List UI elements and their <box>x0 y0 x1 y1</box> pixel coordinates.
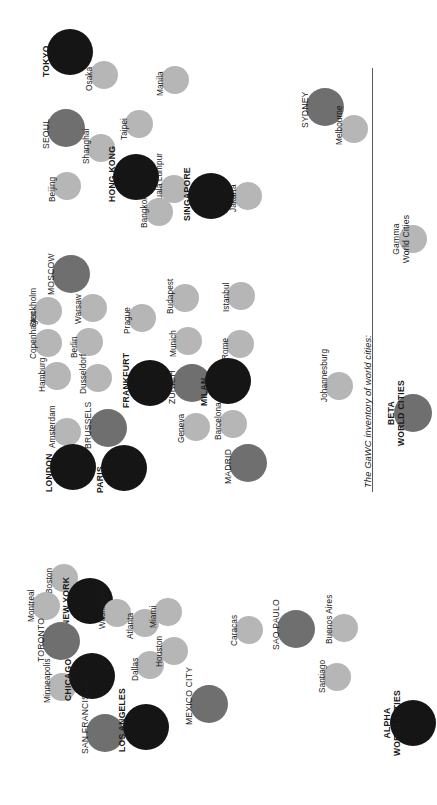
city-label: SEOUL <box>42 119 51 149</box>
city-label: TORONTO <box>37 618 46 662</box>
city-label: Bangkok <box>141 195 150 228</box>
city-label: Jakarta <box>230 184 239 212</box>
legend-label-gamma: GammaWorld Cities <box>391 193 412 285</box>
city-label: Atlanta <box>127 613 136 639</box>
city-label: Hamburg <box>39 358 48 392</box>
city-label: Shanghai <box>83 129 92 164</box>
city-label: Boston <box>46 568 55 594</box>
city-label: Miami <box>150 606 159 628</box>
city-node[interactable] <box>50 444 96 490</box>
city-label: BRUSSELS <box>84 402 93 449</box>
city-label: Geneva <box>178 414 187 443</box>
city-node[interactable] <box>188 173 234 219</box>
city-label: SINGAPORE <box>183 167 192 221</box>
city-label: Melbourne <box>336 105 345 145</box>
city-label: Minneapolis <box>44 658 53 703</box>
city-node[interactable] <box>89 409 127 447</box>
city-label: LONDON <box>45 453 54 492</box>
city-label: Caracas <box>231 615 240 646</box>
city-node[interactable] <box>101 445 147 491</box>
page-title: The GaWC inventory of world cities: <box>362 335 373 488</box>
legend-label-line1: BETA <box>386 367 396 459</box>
city-label: Taipei <box>121 118 130 140</box>
city-label: Budapest <box>167 279 176 314</box>
city-label: Johannesburg <box>321 349 330 402</box>
city-label: NEW YORK <box>62 577 71 626</box>
city-label: CHICAGO <box>64 659 73 701</box>
legend-label-line2: WORLD CITIES <box>392 677 402 769</box>
city-label: MILAN <box>200 378 209 406</box>
city-label: Buenos Aires <box>326 595 335 644</box>
city-label: Rome <box>222 338 231 360</box>
city-node[interactable] <box>52 255 90 293</box>
city-label: Warsaw <box>75 294 84 324</box>
city-label: Houston <box>156 636 165 667</box>
legend-label-line1: ALPHA <box>382 677 392 769</box>
city-label: MEXICO CITY <box>185 667 194 725</box>
city-label: MOSCOW <box>47 253 56 295</box>
city-label: MADRID <box>224 449 233 484</box>
city-node[interactable] <box>205 358 251 404</box>
city-label: SYDNEY <box>301 91 310 128</box>
city-node[interactable] <box>69 653 115 699</box>
legend-label-beta: BETAWORLD CITIES <box>386 367 407 459</box>
city-label: HONG KONG <box>108 146 117 202</box>
city-label: Beijing <box>49 177 58 202</box>
city-node[interactable] <box>42 622 80 660</box>
city-label: ZURICH <box>168 370 177 404</box>
city-label: Amsterdam <box>49 405 58 448</box>
world-cities-diagram: TOKYOOsakaManilaSEOULTaipeiShanghaiBeiji… <box>0 0 437 805</box>
city-label: Osaka <box>86 67 95 91</box>
city-label: PARIS <box>96 466 105 493</box>
city-label: Manila <box>157 71 166 96</box>
city-label: Munich <box>170 330 179 357</box>
city-label: Dusseldorf <box>80 354 89 394</box>
city-node[interactable] <box>190 685 228 723</box>
city-label: Santiago <box>319 660 328 693</box>
city-node[interactable] <box>229 444 267 482</box>
city-node[interactable] <box>47 109 85 147</box>
city-node[interactable] <box>123 704 169 750</box>
city-node[interactable] <box>113 154 159 200</box>
city-label: TOKYO <box>42 45 51 77</box>
city-label: Washington <box>99 585 108 629</box>
legend-label-line2: World Cities <box>401 193 411 285</box>
legend-label-line2: WORLD CITIES <box>396 367 406 459</box>
legend-label-alpha: ALPHAWORLD CITIES <box>382 677 403 769</box>
city-label: Copenhagen <box>30 311 39 359</box>
city-label: FRANKFURT <box>122 353 131 408</box>
city-label: Prague <box>124 307 133 334</box>
city-label: Dallas <box>132 658 141 681</box>
city-label: Barcelona <box>215 402 224 440</box>
city-label: Istanbul <box>223 283 232 312</box>
city-label: SAO PAULO <box>272 599 281 650</box>
city-label: LOS ANGELES <box>118 688 127 752</box>
city-node[interactable] <box>277 610 315 648</box>
city-label: SAN FRANCISCO <box>81 681 90 754</box>
legend-label-line1: Gamma <box>391 193 401 285</box>
